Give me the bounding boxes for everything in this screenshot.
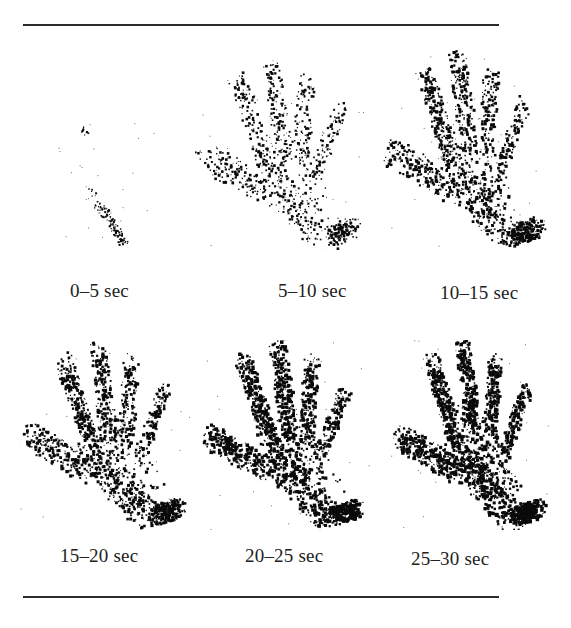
caption-5-10-sec: 5–10 sec — [278, 280, 347, 302]
hand-print-image — [55, 120, 155, 250]
caption-10-15-sec: 10–15 sec — [440, 282, 518, 304]
hand-print-panel-2 — [380, 50, 550, 250]
hand-print-image — [390, 340, 550, 530]
caption-15-20-sec: 15–20 sec — [60, 545, 138, 567]
hand-print-panel-3 — [20, 340, 190, 530]
hand-print-panel-4 — [200, 340, 370, 530]
top-rule — [23, 24, 499, 26]
hand-print-panel-1 — [195, 60, 365, 250]
hand-print-image — [200, 340, 370, 530]
hand-print-image — [20, 340, 190, 530]
caption-20-25-sec: 20–25 sec — [245, 545, 323, 567]
hand-print-image — [380, 50, 550, 250]
hand-print-panel-0 — [55, 120, 155, 250]
caption-0-5-sec: 0–5 sec — [70, 280, 129, 302]
hand-print-image — [195, 60, 365, 250]
bottom-rule — [23, 596, 499, 598]
caption-25-30-sec: 25–30 sec — [411, 548, 489, 570]
hand-print-panel-5 — [390, 340, 550, 530]
